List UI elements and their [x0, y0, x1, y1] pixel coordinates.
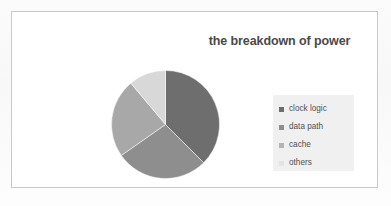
pie-chart-svg — [111, 70, 220, 179]
legend-swatch-data-path — [279, 125, 284, 130]
legend-item-others[interactable]: others — [279, 154, 354, 172]
legend-item-data-path[interactable]: data path — [279, 118, 354, 136]
legend-item-cache[interactable]: cache — [279, 136, 354, 154]
legend-label-others: others — [289, 159, 312, 167]
legend-item-clock-logic[interactable]: clock logic — [279, 100, 354, 118]
legend-swatch-cache — [279, 143, 284, 148]
chart-legend[interactable]: clock logic data path cache others — [273, 95, 354, 171]
chart-frame[interactable]: the breakdown of power clock logic data … — [11, 11, 378, 188]
chart-title: the breakdown of power — [177, 34, 382, 48]
legend-swatch-others — [279, 161, 284, 166]
legend-label-cache: cache — [289, 141, 311, 149]
legend-swatch-clock-logic — [279, 107, 284, 112]
legend-label-data-path: data path — [289, 123, 323, 131]
pie-slice-group — [112, 71, 220, 179]
legend-label-clock-logic: clock logic — [289, 105, 327, 113]
screenshot-root: the breakdown of power clock logic data … — [0, 0, 391, 206]
pie-chart-plot-area[interactable] — [111, 70, 220, 179]
